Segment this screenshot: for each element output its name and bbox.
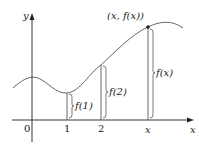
x-axis-label: x [190,124,196,135]
y-axis-arrow-icon [30,13,35,20]
origin-label: 0 [24,123,30,134]
function-curve [13,22,183,93]
label-f1: f(1) [74,100,93,111]
brace-f2-icon [103,66,108,118]
point-label: (x, f(x)) [107,10,144,21]
brace-fx-icon [150,29,155,118]
tick-label-x: x [145,124,151,135]
label-f2: f(2) [108,86,127,97]
x-axis-arrow-icon [187,118,194,123]
label-fx: f(x) [155,67,173,78]
point-marker-icon [146,25,150,29]
tick-label-1: 1 [64,123,70,134]
tick-label-2: 2 [98,123,104,134]
y-axis-label: y [22,10,29,21]
brace-f1-icon [69,94,74,118]
function-diagram: y x 0 1 2 x f(1) f(2) f(x) (x, f(x)) [0,0,199,146]
